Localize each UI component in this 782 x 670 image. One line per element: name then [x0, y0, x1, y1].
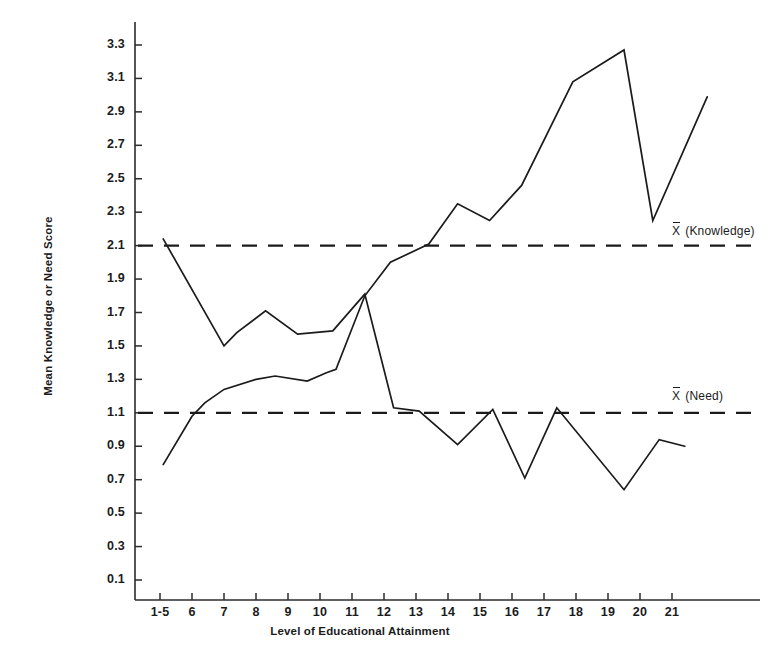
- knowledge-mean-annotation: X(Knowledge): [672, 224, 755, 238]
- chart-figure: 0.10.30.50.70.91.11.31.51.71.92.12.32.52…: [0, 0, 782, 670]
- y-axis-title: Mean Knowledge or Need Score: [42, 196, 54, 416]
- y-tick-label: 2.3: [83, 204, 125, 218]
- y-tick-label: 1.9: [83, 271, 125, 285]
- y-tick-label: 0.7: [83, 472, 125, 486]
- y-tick-label: 0.9: [83, 438, 125, 452]
- y-tick-label: 2.7: [83, 137, 125, 151]
- y-tick-label: 2.1: [83, 238, 125, 252]
- axes: [135, 22, 760, 600]
- data-series: [163, 50, 707, 490]
- y-tick-label: 0.1: [83, 572, 125, 586]
- y-tick-label: 2.9: [83, 104, 125, 118]
- need-mean-label: (Need): [685, 389, 723, 403]
- y-tick-label: 0.5: [83, 505, 125, 519]
- y-tick-label: 0.3: [83, 539, 125, 553]
- y-tick-label: 1.1: [83, 405, 125, 419]
- series-line-need: [163, 239, 685, 490]
- need-mean-annotation: X(Need): [672, 389, 723, 403]
- plot-area: [0, 0, 782, 670]
- y-tick-label: 1.7: [83, 305, 125, 319]
- x-axis-title: Level of Educational Attainment: [150, 625, 570, 637]
- x-tick-label: 21: [649, 605, 695, 619]
- knowledge-mean-label: (Knowledge): [685, 224, 755, 238]
- y-tick-label: 2.5: [83, 171, 125, 185]
- y-tick-label: 3.3: [83, 37, 125, 51]
- series-line-knowledge: [163, 50, 707, 465]
- xbar-symbol-need: X: [672, 389, 680, 403]
- y-tick-label: 1.3: [83, 371, 125, 385]
- y-tick-label: 3.1: [83, 70, 125, 84]
- y-tick-label: 1.5: [83, 338, 125, 352]
- xbar-symbol-knowledge: X: [672, 224, 680, 238]
